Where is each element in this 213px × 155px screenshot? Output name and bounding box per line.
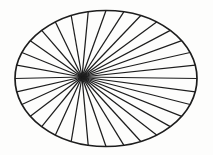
spoke-4 [82,30,170,77]
spoke-22 [71,77,82,142]
spoke-0 [82,77,197,79]
spoke-26 [82,77,141,142]
spoke-6 [82,16,141,78]
spoke-21 [55,77,82,135]
radiating-spoke-ellipse-figure [0,0,213,155]
spoke-25 [82,77,124,145]
spoke-16 [15,77,82,79]
spoke-11 [55,22,82,77]
figure-canvas [0,0,213,155]
spoke-10 [71,16,82,78]
spoke-28 [82,77,170,127]
spoke-15 [17,65,82,77]
spoke-7 [82,12,124,77]
spoke-30 [82,77,190,105]
